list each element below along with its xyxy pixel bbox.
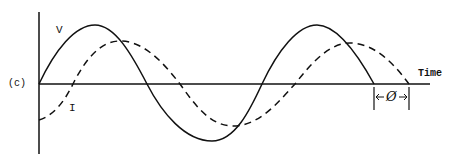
voltage-curve (39, 25, 374, 141)
panel-label: (c) (8, 78, 26, 89)
current-label: I (69, 102, 76, 114)
time-axis-label: Time (418, 68, 442, 79)
waveform-diagram (0, 0, 454, 161)
voltage-label: V (56, 24, 63, 36)
phase-label: Ø (386, 89, 397, 104)
